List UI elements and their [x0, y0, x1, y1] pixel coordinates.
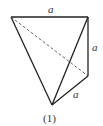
edge-left	[11, 17, 52, 105]
label-bottom-right-edge: a	[73, 88, 79, 100]
label-top-edge: a	[48, 3, 54, 15]
edge-diagonal-front	[52, 17, 88, 105]
label-right-edge: a	[92, 41, 98, 53]
figure-caption: (1)	[43, 112, 56, 125]
tetrahedron-diagram: a a a (1)	[0, 0, 103, 126]
